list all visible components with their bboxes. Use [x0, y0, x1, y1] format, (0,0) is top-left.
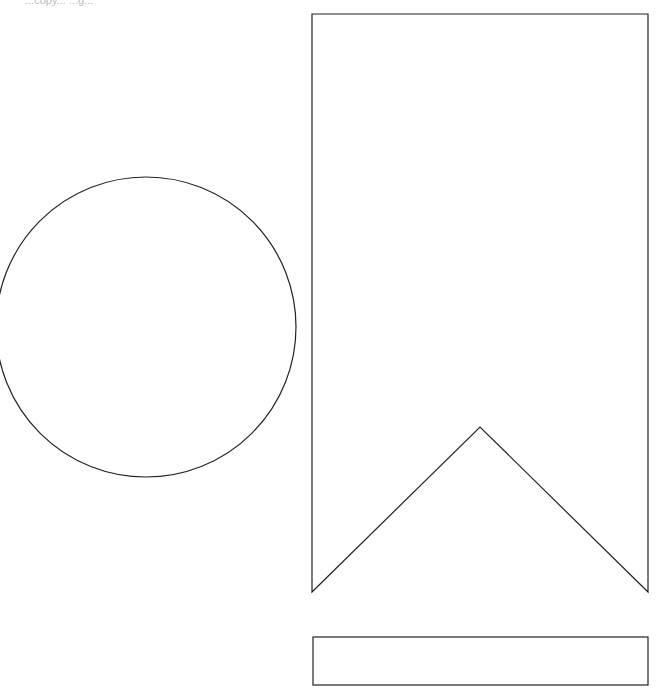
circle-shape — [0, 177, 296, 477]
banner-shape — [312, 14, 648, 592]
drawing-canvas — [0, 0, 657, 690]
rectangle-shape — [313, 637, 648, 685]
